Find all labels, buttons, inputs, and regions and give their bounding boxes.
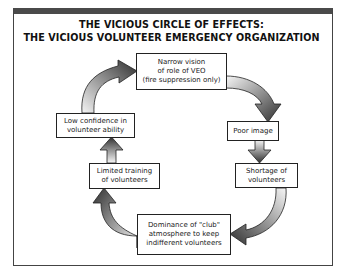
node-poor-image: Poor image (227, 121, 279, 141)
node-label: Poor image (233, 127, 272, 136)
node-label: Shortage of volunteers (246, 167, 287, 185)
node-dominance-club: Dominance of "club" atmosphere to keep i… (137, 214, 231, 255)
node-low-confidence: Low confidence in volunteer ability (56, 113, 135, 138)
arrow-limitedtraining-to-lowconfidence (100, 137, 123, 163)
arrow-narrowvision-to-poorimage (226, 76, 281, 122)
arrow-dominance-to-limitedtraining (93, 188, 137, 248)
node-label: Narrow vision of role of VEO (fire suppr… (142, 58, 220, 85)
node-narrow-vision: Narrow vision of role of VEO (fire suppr… (136, 53, 227, 90)
node-label: Limited training of volunteers (97, 167, 152, 185)
arrow-lowconfidence-to-narrowvision (82, 60, 137, 113)
node-limited-training: Limited training of volunteers (89, 163, 160, 189)
arrow-shortage-to-dominance (230, 188, 286, 245)
node-shortage: Shortage of volunteers (235, 163, 298, 188)
arrow-poorimage-to-shortage (248, 140, 271, 163)
node-label: Dominance of "club" atmosphere to keep i… (146, 221, 221, 248)
node-label: Low confidence in volunteer ability (64, 117, 127, 135)
